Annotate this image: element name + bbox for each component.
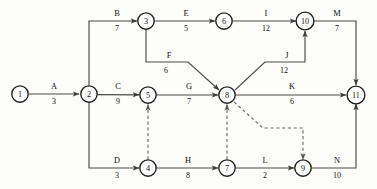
- edge-name-M: M: [333, 9, 341, 18]
- edge-weight-L: 2: [263, 171, 267, 180]
- node-label-7: 7: [225, 164, 229, 173]
- node-6[interactable]: 6: [216, 13, 232, 29]
- edge-name-B: B: [114, 9, 120, 18]
- edge-name-N: N: [334, 156, 340, 165]
- node-1[interactable]: 1: [12, 86, 28, 102]
- node-10[interactable]: 10: [296, 12, 314, 30]
- node-label-6: 6: [222, 17, 226, 26]
- edge-weight-G: 7: [187, 97, 191, 106]
- edge-name-K: K: [289, 82, 295, 91]
- edge-weight-A: 3: [52, 97, 56, 106]
- edge-weight-B: 7: [115, 24, 119, 33]
- edge-name-E: E: [183, 9, 188, 18]
- edge-weight-D: 3: [115, 171, 119, 180]
- node-3[interactable]: 3: [138, 13, 154, 29]
- edge-name-I: I: [265, 9, 268, 18]
- edge-weight-C: 9: [116, 97, 120, 106]
- node-2[interactable]: 2: [81, 86, 97, 102]
- node-label-5: 5: [146, 91, 150, 100]
- dummy-edge-path-8-9: [234, 102, 303, 160]
- edge-weight-K: 6: [290, 97, 294, 106]
- edge-weight-H: 8: [186, 171, 190, 180]
- node-label-4: 4: [146, 164, 150, 173]
- edge-label-C: C 9: [115, 82, 121, 106]
- edge-weight-E: 5: [184, 24, 188, 33]
- edge-name-C: C: [115, 82, 121, 91]
- edge-name-L: L: [262, 156, 267, 165]
- node-label-9: 9: [301, 164, 305, 173]
- edge-name-A: A: [51, 82, 57, 91]
- node-label-2: 2: [87, 90, 91, 99]
- edge-path-F: [146, 30, 219, 91]
- node-label-8: 8: [225, 91, 229, 100]
- edge-name-H: H: [185, 156, 191, 165]
- node-label-11: 11: [352, 91, 360, 100]
- node-7[interactable]: 7: [219, 160, 235, 176]
- activity-network-diagram: 1 2 3 4 5 6 7 8: [0, 0, 377, 189]
- edge-weight-J: 12: [280, 66, 288, 75]
- edge-name-G: G: [186, 82, 192, 91]
- edge-label-J: J 12: [280, 51, 289, 75]
- node-11[interactable]: 11: [347, 86, 365, 104]
- edge-label-K: K 6: [289, 82, 295, 106]
- network-graph-canvas: 1 2 3 4 5 6 7 8: [0, 0, 377, 189]
- edge-weight-I: 12: [262, 24, 270, 33]
- node-5[interactable]: 5: [140, 87, 156, 103]
- node-label-10: 10: [301, 17, 309, 26]
- node-label-3: 3: [144, 17, 148, 26]
- edge-name-F: F: [167, 51, 172, 60]
- edge-name-D: D: [114, 156, 120, 165]
- node-8[interactable]: 8: [219, 87, 235, 103]
- edge-label-G: G 7: [186, 82, 192, 106]
- edge-path-B: [89, 21, 137, 86]
- edge-weight-F: 6: [164, 66, 168, 75]
- node-label-1: 1: [18, 90, 22, 99]
- node-4[interactable]: 4: [140, 160, 156, 176]
- edge-weight-N: 10: [333, 171, 341, 180]
- edge-name-J: J: [285, 51, 289, 60]
- edge-weight-M: 7: [335, 24, 339, 33]
- node-9[interactable]: 9: [295, 160, 311, 176]
- edge-label-F: F 6: [164, 51, 172, 75]
